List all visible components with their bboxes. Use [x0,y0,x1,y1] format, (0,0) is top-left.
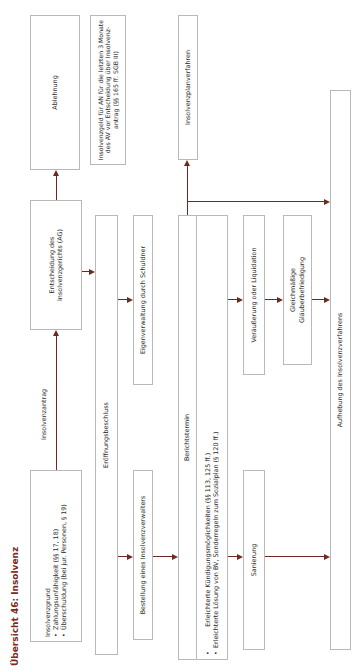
node-berichtstermin: Berichtstermin Erleichterte Kündigungsmö… [178,215,228,660]
diagram-title: Übersicht 46: Insolvenz [10,547,20,666]
eroeffnung-text: Eröffnungsbeschluss [102,402,110,468]
berichtstermin-list: Erleichterte Kündigungsmöglichkeiten (§§… [204,432,220,655]
planverfahren-text: Insolvenzplanverfahren [184,50,192,125]
connector-aufhebung-1 [312,299,324,300]
insolvenzgeld-text: Insolvenzgeld für AN für die letzten 3 M… [97,19,120,161]
aufhebung-text: Aufhebung des Insolvenzverfahrens [336,313,344,428]
insolvenzgrund-heading: Insolvenzgrund [44,588,52,637]
connector-eroeffnung [82,271,89,272]
node-glaeubigerbefriedigung: Gleichmäßige Gläuberbefriedigung [283,215,312,365]
node-aufhebung: Aufhebung des Insolvenzverfahrens [330,90,351,650]
node-insolvenzgeld: Insolvenzgeld für AN für die letzten 3 M… [90,15,126,165]
connector-veraeusserung [228,299,237,300]
arrow-icon [53,330,59,336]
eigenverwaltung-text: Eigenverwaltung durch Schuldner [139,246,147,354]
node-bestellung: Bestellung eines Insolvenzverwalters [133,470,153,640]
sanierung-text: Sanierung [250,544,258,577]
arrow-icon [53,170,59,176]
list-item: Erleichterte Lösung von BV, Sonderregeln… [212,432,220,655]
berichtstermin-heading: Berichtstermin [179,216,197,659]
berichtstermin-body: Erleichterte Kündigungsmöglichkeiten (§§… [197,216,227,655]
connector-ablehnung [56,176,57,200]
node-insolvenzplanverfahren: Insolvenzplanverfahren [178,15,198,160]
node-veraeusserung: Veräußerung oder Liquidation [243,215,265,375]
glaeubiger-text: Gleichmäßige Gläuberbefriedigung [289,255,305,325]
entscheidung-text: Entscheidung des Insolvenzgerichts (AG) [48,220,64,310]
bestellung-text: Bestellung eines Insolvenzverwalters [139,496,147,615]
insolvency-diagram: Übersicht 46: Insolvenz Insolvenzgrund Z… [0,0,364,672]
connector-planverfahren [187,166,188,215]
connector-aufhebung-2 [265,556,324,557]
berichtstermin-heading-text: Berichtstermin [183,414,191,461]
node-eigenverwaltung: Eigenverwaltung durch Schuldner [133,215,153,385]
connector-glaeubiger [265,299,277,300]
connector-eigenverwaltung [118,299,127,300]
connector-sanierung [228,556,237,557]
list-item: Überschuldung (bei jur. Personen, § 19) [60,504,68,637]
label-insolvenzantrag: Insolvenzantrag [40,389,48,440]
connector-branch [187,201,324,202]
insolvenzgrund-list: Zahlungsunfähigkeit (§§ 17, 18) Überschu… [52,504,68,637]
arrow-icon [184,160,190,166]
veraeusserung-text: Veräußerung oder Liquidation [250,247,258,342]
node-entscheidung: Entscheidung des Insolvenzgerichts (AG) [30,200,82,330]
list-item: Erleichterte Kündigungsmöglichkeiten (§§… [204,432,212,655]
list-item: Zahlungsunfähigkeit (§§ 17, 18) [52,504,60,637]
connector-berichtstermin [153,556,172,557]
node-ablehnung: Ablehnung [30,15,80,170]
connector-bestellung [118,556,127,557]
connector-antrag [56,336,57,470]
node-eroeffnungsbeschluss: Eröffnungsbeschluss [95,215,118,655]
ablehnung-text: Ablehnung [51,75,59,109]
node-insolvenzgrund: Insolvenzgrund Zahlungsunfähigkeit (§§ 1… [30,470,82,642]
node-sanierung: Sanierung [243,470,265,650]
